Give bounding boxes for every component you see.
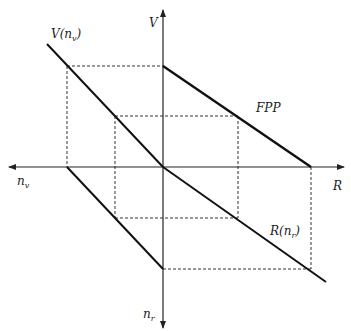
- v-nv-label: V(nv): [51, 27, 82, 43]
- fpp-label: FPP: [255, 101, 281, 115]
- nv-axis-label: nv: [17, 174, 30, 190]
- r-nr-curve: [163, 167, 326, 282]
- v-nv-curve: [47, 44, 163, 167]
- r-axis-label: R: [332, 179, 342, 193]
- nr-axis-label: nr: [143, 307, 156, 323]
- r-nr-label: R(nr): [269, 224, 300, 240]
- v-axis-label: V: [149, 16, 159, 30]
- four-quadrant-diagram: V R nv nr FPP V(nv) R(nr): [0, 0, 351, 331]
